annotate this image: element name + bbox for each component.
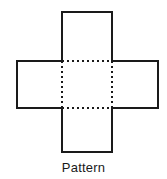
figure-caption: Pattern bbox=[0, 160, 167, 176]
cube-net-svg bbox=[0, 0, 167, 158]
cube-net-diagram bbox=[0, 0, 167, 158]
pattern-figure-panel: Pattern bbox=[0, 0, 167, 179]
